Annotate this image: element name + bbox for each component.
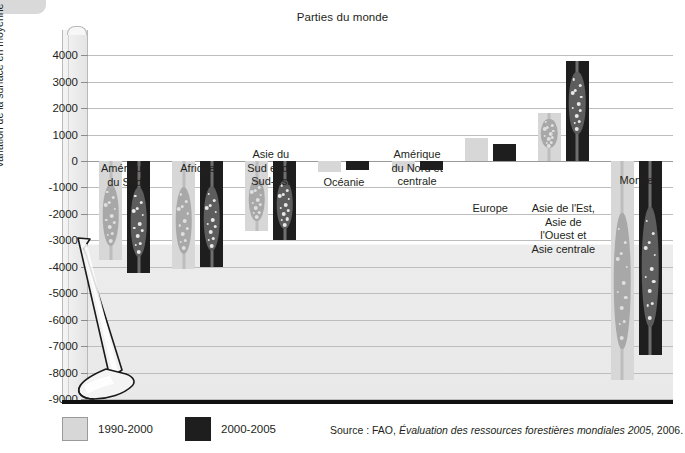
leaf-dot — [208, 239, 210, 241]
leaf-dot — [140, 229, 143, 232]
tree-crown — [614, 213, 631, 349]
leaf-dot — [185, 227, 188, 230]
leaf-dot — [282, 193, 285, 196]
leaf-dot — [652, 232, 655, 235]
category-label-line: Asie du — [229, 148, 313, 162]
leaf-dot — [254, 189, 257, 192]
leaf-dot — [287, 209, 290, 212]
leaf-dot — [624, 241, 627, 244]
leaf-dot — [574, 114, 578, 118]
category-label-line: Afrique — [156, 162, 240, 176]
leaf-dot — [286, 189, 289, 192]
leaf-dot — [284, 203, 288, 207]
leaf-dot — [653, 254, 655, 256]
legend-item-2000-2005: 2000-2005 — [185, 417, 276, 441]
leaf-dot — [652, 280, 655, 283]
tree-motif-icon — [611, 161, 634, 380]
tree-crown — [541, 119, 558, 149]
category-label-asie-de-lest: Asie de l'Est,Asie del'Ouest etAsie cent… — [514, 202, 612, 256]
axe-illustration-icon — [60, 236, 144, 404]
category-label-line: Sud-Est — [229, 175, 313, 189]
category-label-line: du Nord et — [371, 162, 463, 176]
leaf-dot — [107, 201, 110, 204]
leaf-dot — [651, 302, 654, 305]
leaf-dot — [551, 136, 554, 139]
leaf-dot — [209, 230, 213, 234]
leaf-dot — [256, 198, 260, 202]
category-label-line: l'Ouest et — [514, 229, 612, 243]
category-label-line: Monde — [594, 174, 678, 188]
category-label-line: Asie centrale — [514, 243, 612, 257]
category-label-line: Amérique — [371, 148, 463, 162]
leaf-dot — [647, 289, 651, 293]
gridline--7000 — [88, 346, 673, 347]
leaf-dot — [579, 109, 582, 112]
leaf-dot — [254, 215, 258, 219]
y-tick-mark-3000 — [81, 82, 88, 83]
leaf-dot — [550, 124, 553, 127]
leaf-dot — [132, 209, 136, 213]
leaf-dot — [618, 323, 620, 325]
y-tick-label--1000: -1000 — [26, 181, 78, 193]
bar-2000-2005-5 — [493, 144, 516, 161]
leaf-dot — [180, 205, 183, 208]
legend-item-1990-2000: 1990-2000 — [62, 417, 153, 441]
category-label-line: Asie de — [514, 216, 612, 230]
leaf-dot — [185, 200, 188, 203]
leaf-dot — [213, 199, 216, 202]
leaf-dot — [138, 222, 142, 226]
leaf-dot — [645, 276, 647, 278]
bar-1990-2000-5 — [465, 138, 488, 161]
gridline--8000 — [88, 373, 673, 374]
source-title: Évaluation des ressources forestières mo… — [399, 424, 651, 436]
y-tick-label-0: 0 — [26, 155, 78, 167]
bar-1990-2000-1 — [172, 161, 195, 269]
leaf-dot — [253, 212, 255, 214]
leaf-dot — [547, 144, 551, 148]
source-prefix: Source : FAO, — [330, 424, 399, 436]
tree-motif-icon — [172, 161, 195, 269]
leaf-dot — [213, 225, 216, 228]
leaf-dot — [288, 198, 290, 200]
leaf-dot — [282, 212, 286, 216]
leaf-dot — [206, 223, 208, 225]
leaf-dot — [574, 89, 577, 92]
leaf-dot — [187, 212, 189, 214]
leaf-dot — [112, 221, 115, 224]
bar-1990-2000-7 — [611, 161, 634, 380]
category-label-line: Sud et du — [229, 162, 313, 176]
leaf-dot — [621, 281, 625, 285]
leaf-dot — [254, 206, 258, 210]
category-label-line: Amérique — [83, 162, 167, 176]
leaf-dot — [619, 252, 622, 255]
leaf-dot — [133, 227, 135, 229]
leaf-dot — [580, 96, 582, 98]
leaf-dot — [209, 244, 213, 248]
leaf-dot — [578, 84, 581, 87]
leaf-dot — [617, 291, 619, 293]
leaf-dot — [111, 232, 114, 235]
tree-motif-icon — [639, 161, 662, 355]
leaf-dot — [544, 135, 546, 137]
leaf-dot — [623, 320, 626, 323]
tree-crown — [203, 186, 220, 252]
tree-crown — [569, 72, 586, 134]
legend-label-1990-2000: 1990-2000 — [98, 423, 153, 435]
bar-2000-2005-3 — [346, 161, 369, 170]
leaf-dot — [179, 193, 181, 195]
leaf-dot — [180, 241, 182, 243]
leaf-dot — [215, 211, 217, 213]
leaf-dot — [113, 208, 115, 210]
leaf-dot — [106, 191, 108, 193]
bar-2000-2005-6 — [566, 61, 589, 161]
category-label-amerique-du-sud: Amériquedu Sud — [83, 162, 167, 189]
leaf-dot — [251, 202, 253, 204]
leaf-dot — [281, 219, 283, 221]
figure-root: Parties du monde Variation de la surface… — [0, 0, 685, 453]
legend-swatch-icon-2000-2005 — [185, 417, 211, 441]
source-suffix: , 2006. — [651, 424, 683, 436]
leaf-dot — [552, 130, 554, 132]
leaf-dot — [211, 218, 215, 222]
leaf-dot — [208, 204, 211, 207]
y-tick-label-1000: 1000 — [26, 129, 78, 141]
